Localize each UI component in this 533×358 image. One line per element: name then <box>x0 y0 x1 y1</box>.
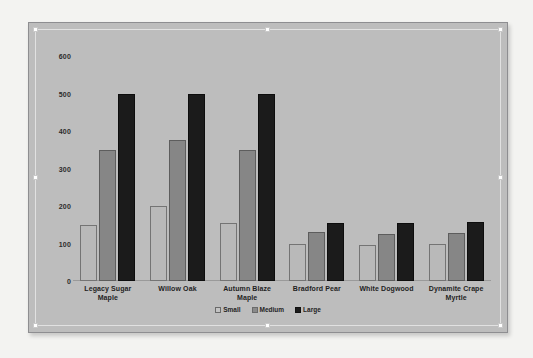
x-axis-category-label: Legacy SugarMaple <box>73 284 143 302</box>
y-axis: 0100200300400500600 <box>43 56 71 281</box>
bar-group-bars <box>352 56 422 281</box>
y-axis-tick-label: 600 <box>59 53 71 60</box>
bar-group[interactable] <box>282 56 352 281</box>
y-axis-tick-label: 500 <box>59 90 71 97</box>
legend-label: Medium <box>260 307 285 314</box>
legend-item-small[interactable]: Small <box>215 307 240 314</box>
bar-group-bars <box>143 56 213 281</box>
resize-handle-top-right[interactable] <box>498 27 503 32</box>
category-label-line: Maple <box>73 293 143 302</box>
bar-large[interactable] <box>258 94 275 282</box>
bar-small[interactable] <box>359 245 376 281</box>
page-backdrop: 0100200300400500600 Legacy SugarMapleWil… <box>0 0 533 358</box>
bar-group-bars <box>73 56 143 281</box>
y-axis-tick-label: 0 <box>67 278 71 285</box>
legend-swatch-icon <box>252 307 258 313</box>
bar-group[interactable] <box>143 56 213 281</box>
bar-small[interactable] <box>220 223 237 281</box>
legend-label: Small <box>223 307 240 314</box>
bar-group[interactable] <box>73 56 143 281</box>
legend-swatch-icon <box>215 307 221 313</box>
x-axis-category-label: Autumn BlazeMaple <box>212 284 282 302</box>
bar-medium[interactable] <box>239 150 256 281</box>
category-label-line: Myrtle <box>421 293 491 302</box>
category-label-line: Maple <box>212 293 282 302</box>
y-axis-tick-label: 200 <box>59 203 71 210</box>
bar-medium[interactable] <box>448 233 465 281</box>
chart-legend: SmallMediumLarge <box>29 307 507 314</box>
y-axis-tick-label: 100 <box>59 240 71 247</box>
plot-area <box>73 56 491 281</box>
y-axis-tick-label: 400 <box>59 128 71 135</box>
bar-medium[interactable] <box>378 234 395 281</box>
y-axis-tick-label: 300 <box>59 165 71 172</box>
category-label-line: Willow Oak <box>143 284 213 293</box>
x-axis-category-label: Dynamite CrapeMyrtle <box>421 284 491 302</box>
category-label-line: Dynamite Crape <box>421 284 491 293</box>
category-label-line: White Dogwood <box>352 284 422 293</box>
resize-handle-middle-right[interactable] <box>498 175 503 180</box>
x-axis-category-label: Willow Oak <box>143 284 213 293</box>
bar-large[interactable] <box>397 223 414 281</box>
legend-item-medium[interactable]: Medium <box>252 307 285 314</box>
bar-group[interactable] <box>352 56 422 281</box>
category-label-line: Legacy Sugar <box>73 284 143 293</box>
bar-large[interactable] <box>467 222 484 281</box>
bar-small[interactable] <box>429 244 446 281</box>
resize-handle-middle-left[interactable] <box>33 175 38 180</box>
category-label-line: Autumn Blaze <box>212 284 282 293</box>
chart-object[interactable]: 0100200300400500600 Legacy SugarMapleWil… <box>28 22 508 333</box>
bar-small[interactable] <box>80 225 97 281</box>
bar-medium[interactable] <box>99 150 116 281</box>
bar-group-bars <box>282 56 352 281</box>
resize-handle-bottom-right[interactable] <box>498 323 503 328</box>
bar-group-bars <box>212 56 282 281</box>
bar-small[interactable] <box>150 206 167 281</box>
resize-handle-top-center[interactable] <box>265 27 270 32</box>
bar-large[interactable] <box>188 94 205 282</box>
bar-group[interactable] <box>421 56 491 281</box>
resize-handle-bottom-left[interactable] <box>33 323 38 328</box>
bar-medium[interactable] <box>169 140 186 281</box>
bar-group-bars <box>421 56 491 281</box>
bar-small[interactable] <box>289 244 306 282</box>
bar-large[interactable] <box>327 223 344 281</box>
category-label-line: Bradford Pear <box>282 284 352 293</box>
bar-group[interactable] <box>212 56 282 281</box>
bar-medium[interactable] <box>308 232 325 281</box>
resize-handle-bottom-center[interactable] <box>265 323 270 328</box>
legend-swatch-icon <box>295 307 301 313</box>
bar-large[interactable] <box>118 94 135 282</box>
legend-label: Large <box>303 307 321 314</box>
resize-handle-top-left[interactable] <box>33 27 38 32</box>
x-axis-category-label: Bradford Pear <box>282 284 352 293</box>
legend-item-large[interactable]: Large <box>295 307 321 314</box>
x-axis-category-label: White Dogwood <box>352 284 422 293</box>
